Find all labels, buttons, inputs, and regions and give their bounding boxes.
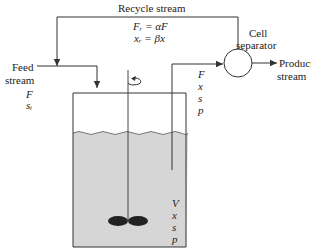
separator-label-line1: Cell xyxy=(249,27,267,39)
feed-line xyxy=(37,66,97,88)
recycle-flow-equation: Fᵣ = αF xyxy=(133,20,168,32)
reactor-liquid xyxy=(73,132,188,248)
outlet-var-x: x xyxy=(198,80,203,92)
cell-separator-circle xyxy=(224,49,252,77)
reactor-var-V: V xyxy=(172,197,179,209)
bioreactor-recycle-diagram: Recycle stream Fᵣ = αF xᵣ = βx Feed stre… xyxy=(0,0,311,248)
feed-label-line1: Feed xyxy=(12,61,33,73)
separator-label-line2: separator xyxy=(236,39,276,51)
reactor-var-s: s xyxy=(172,221,176,233)
rotation-icon xyxy=(128,76,141,85)
recycle-concentration-equation: xᵣ = βx xyxy=(134,32,165,44)
feed-label-line2: stream xyxy=(5,74,34,86)
recycle-stream-label: Recycle stream xyxy=(118,2,186,14)
reactor-var-x: x xyxy=(172,209,177,221)
outlet-var-F: F xyxy=(198,68,205,80)
feed-var-si: sᵢ xyxy=(26,99,32,111)
outlet-var-s: s xyxy=(198,92,202,104)
product-label-line2: stream xyxy=(277,70,306,82)
outlet-var-p: p xyxy=(198,104,204,116)
product-label-line1: Product xyxy=(279,57,311,69)
reactor-var-p: p xyxy=(172,233,178,245)
